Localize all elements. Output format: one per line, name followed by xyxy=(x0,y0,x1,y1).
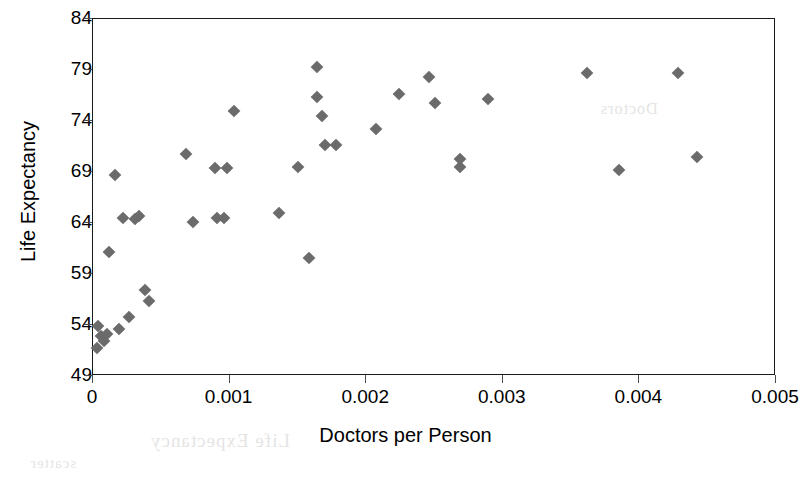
x-axis-tick-label: 0.003 xyxy=(478,386,526,408)
data-point xyxy=(690,150,703,163)
plot-area xyxy=(92,18,775,375)
data-point xyxy=(220,162,233,175)
x-axis-tick-label: 0.001 xyxy=(205,386,253,408)
y-axis-tick-mark xyxy=(84,222,92,223)
x-axis-tick-label: 0.002 xyxy=(341,386,389,408)
x-axis-tick-label: 0 xyxy=(87,386,98,408)
data-point xyxy=(393,88,406,101)
data-point xyxy=(227,104,240,117)
data-point xyxy=(311,61,324,74)
x-axis-tick-mark xyxy=(638,375,639,383)
data-point xyxy=(613,164,626,177)
y-axis-tick-mark xyxy=(84,69,92,70)
x-axis-tick-mark xyxy=(365,375,366,383)
x-axis-tick-mark xyxy=(502,375,503,383)
x-axis-title: Doctors per Person xyxy=(0,424,811,447)
y-axis-title: Life Expectancy xyxy=(17,82,40,302)
y-axis-tick-mark xyxy=(84,171,92,172)
data-point xyxy=(311,90,324,103)
data-point xyxy=(302,251,315,264)
data-point xyxy=(186,216,199,229)
y-axis-tick-mark xyxy=(84,324,92,325)
data-point xyxy=(108,169,121,182)
y-axis-tick-mark xyxy=(84,375,92,376)
data-point xyxy=(369,123,382,136)
x-axis-tick-label: 0.005 xyxy=(751,386,799,408)
x-axis-tick-label: 0.004 xyxy=(615,386,663,408)
data-point xyxy=(423,71,436,84)
data-point xyxy=(330,139,343,152)
data-point xyxy=(428,96,441,109)
data-point xyxy=(122,310,135,323)
data-point xyxy=(117,212,130,225)
data-point xyxy=(581,67,594,80)
data-point xyxy=(103,245,116,258)
x-axis-tick-mark xyxy=(229,375,230,383)
data-point xyxy=(113,323,126,336)
data-point xyxy=(316,110,329,123)
x-axis-tick-mark xyxy=(92,375,93,383)
data-point xyxy=(180,147,193,160)
data-point xyxy=(272,206,285,219)
data-point xyxy=(454,161,467,174)
x-axis-tick-mark xyxy=(775,375,776,383)
data-point xyxy=(292,161,305,174)
y-axis-title-wrapper: Life Expectancy xyxy=(0,0,1,1)
scatter-chart-figure: Life Expectancy Doctors scatter 49545964… xyxy=(0,0,811,477)
data-point xyxy=(481,92,494,105)
y-axis-tick-mark xyxy=(84,18,92,19)
data-point xyxy=(208,162,221,175)
data-point xyxy=(671,67,684,80)
y-axis-tick-mark xyxy=(84,273,92,274)
y-axis-tick-mark xyxy=(84,120,92,121)
